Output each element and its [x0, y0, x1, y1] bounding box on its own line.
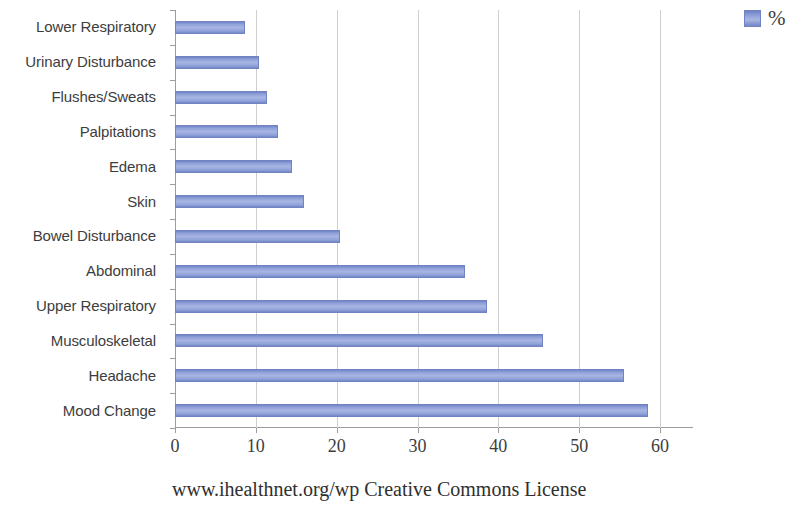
value-axis-label: 50 — [570, 436, 588, 457]
value-axis-label: 0 — [171, 436, 180, 457]
category-label: Palpitations — [0, 124, 156, 140]
category-axis-line — [175, 10, 176, 428]
bar — [175, 91, 267, 104]
category-label: Flushes/Sweats — [0, 89, 156, 105]
legend-swatch-icon — [744, 10, 761, 27]
category-axis-tick — [170, 428, 175, 429]
bar — [175, 195, 304, 208]
bar — [175, 369, 624, 382]
bar — [175, 125, 278, 138]
category-axis-tick — [170, 219, 175, 220]
plot-area — [175, 10, 693, 428]
category-axis-tick — [170, 393, 175, 394]
gridline — [418, 10, 419, 428]
gridline — [660, 10, 661, 428]
legend: % — [744, 8, 786, 29]
gridline — [256, 10, 257, 428]
bar — [175, 334, 543, 347]
bar — [175, 160, 292, 173]
value-axis-label: 60 — [651, 436, 669, 457]
category-axis-labels: Lower RespiratoryUrinary DisturbanceFlus… — [0, 10, 166, 428]
value-axis-line — [175, 427, 693, 428]
category-label: Edema — [0, 159, 156, 175]
category-label: Musculoskeletal — [0, 333, 156, 349]
category-label: Mood Change — [0, 403, 156, 419]
category-axis-tick — [170, 80, 175, 81]
bar — [175, 404, 648, 417]
value-axis-label: 40 — [489, 436, 507, 457]
category-axis-tick — [170, 149, 175, 150]
value-axis-label: 10 — [247, 436, 265, 457]
category-axis-tick — [170, 10, 175, 11]
category-axis-tick — [170, 289, 175, 290]
value-axis-tick — [256, 428, 257, 433]
gridline — [337, 10, 338, 428]
bar — [175, 300, 487, 313]
legend-label: % — [768, 8, 786, 29]
category-label: Lower Respiratory — [0, 19, 156, 35]
value-axis-tick — [579, 428, 580, 433]
category-axis-tick — [170, 324, 175, 325]
category-axis-tick — [170, 254, 175, 255]
bar — [175, 265, 465, 278]
category-axis-tick — [170, 184, 175, 185]
category-label: Bowel Disturbance — [0, 228, 156, 244]
category-label: Urinary Disturbance — [0, 54, 156, 70]
value-axis-tick — [660, 428, 661, 433]
value-axis-tick — [175, 428, 176, 433]
value-axis-label: 30 — [409, 436, 427, 457]
category-label: Skin — [0, 194, 156, 210]
value-axis-tick — [418, 428, 419, 433]
value-axis-labels: 0102030405060 — [175, 436, 735, 462]
value-axis-tick — [498, 428, 499, 433]
bar-chart: Lower RespiratoryUrinary DisturbanceFlus… — [0, 0, 794, 510]
bar — [175, 21, 245, 34]
category-axis-tick — [170, 115, 175, 116]
gridline — [579, 10, 580, 428]
category-label: Abdominal — [0, 263, 156, 279]
gridline — [498, 10, 499, 428]
bar — [175, 230, 340, 243]
footer-attribution: www.ihealthnet.org/wp Creative Commons L… — [172, 478, 586, 501]
value-axis-tick — [337, 428, 338, 433]
category-label: Headache — [0, 368, 156, 384]
category-axis-tick — [170, 358, 175, 359]
value-axis-label: 20 — [328, 436, 346, 457]
bar — [175, 56, 259, 69]
category-axis-tick — [170, 45, 175, 46]
category-label: Upper Respiratory — [0, 298, 156, 314]
